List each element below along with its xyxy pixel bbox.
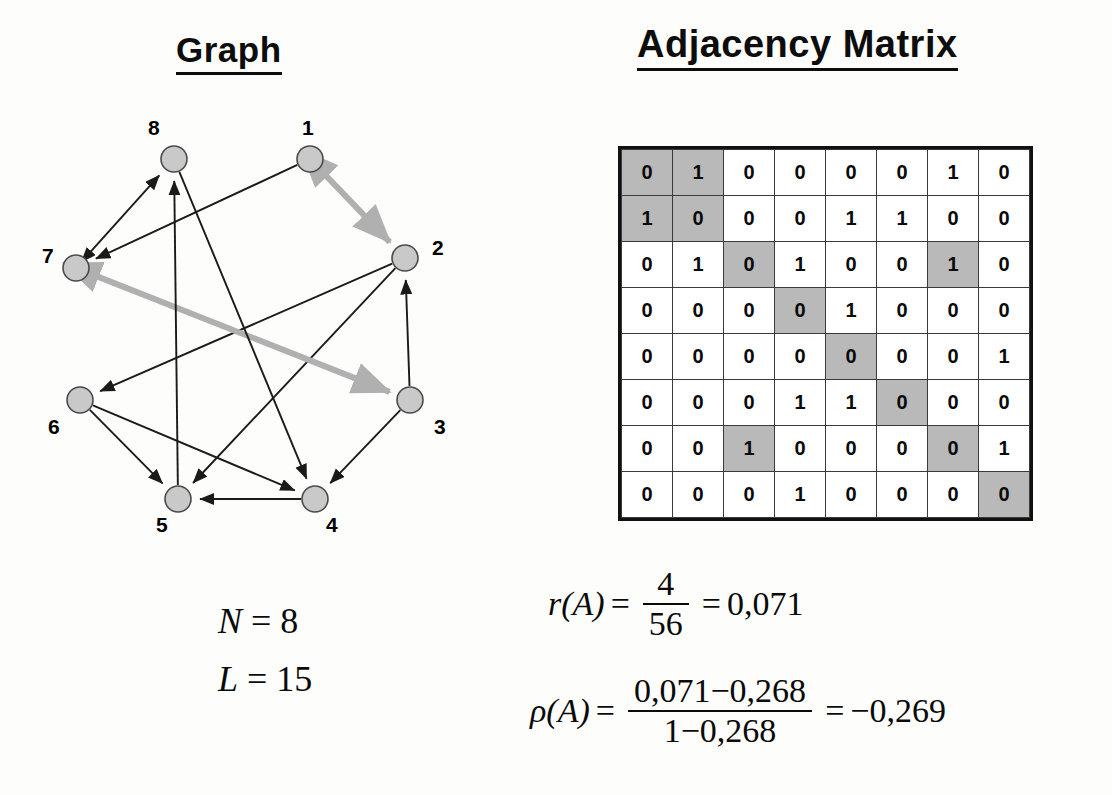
stat-l-value: 15 — [276, 659, 312, 699]
matrix-cell-6-6: 0 — [877, 380, 928, 426]
matrix-cell-4-1: 0 — [622, 288, 673, 334]
graph-node-7[interactable] — [63, 255, 89, 281]
stat-link-count: L = 15 — [218, 658, 312, 700]
matrix-cell-8-1: 0 — [622, 472, 673, 518]
matrix-cell-7-5: 0 — [826, 426, 877, 472]
formula-rho-numerator: 0,071−0,268 — [628, 672, 812, 710]
graph-node-label-6: 6 — [48, 415, 60, 439]
matrix-cell-8-8: 0 — [979, 472, 1030, 518]
formula-rho-equals-2: = — [825, 692, 844, 730]
matrix-cell-8-4: 1 — [775, 472, 826, 518]
formula-r-lhs: r(A) — [548, 585, 605, 623]
matrix-cell-5-3: 0 — [724, 334, 775, 380]
formula-rho-symbol: ρ — [530, 692, 546, 730]
graph-node-2[interactable] — [392, 245, 418, 271]
graph-edge-1-2 — [325, 175, 390, 242]
graph-node-8[interactable] — [161, 146, 187, 172]
matrix-row: 00100001 — [622, 426, 1030, 472]
formula-r-numerator: 4 — [643, 565, 689, 603]
graph-edge-6-5 — [90, 410, 163, 483]
formula-rho-arg: (A) — [546, 692, 589, 730]
stat-n-equals: = — [251, 601, 271, 641]
formula-reciprocity: r(A) = 4 56 = 0,071 — [548, 565, 804, 643]
matrix-cell-5-4: 0 — [775, 334, 826, 380]
formula-r-fraction: 4 56 — [643, 565, 689, 643]
graph-edge-7-8 — [91, 175, 160, 251]
graph-node-label-7: 7 — [42, 244, 54, 268]
graph-node-3[interactable] — [397, 387, 423, 413]
matrix-cell-1-7: 1 — [928, 150, 979, 196]
matrix-row: 01000010 — [622, 150, 1030, 196]
matrix-row: 00011000 — [622, 380, 1030, 426]
matrix-cell-8-3: 0 — [724, 472, 775, 518]
formula-rho-denominator: 1−0,268 — [628, 710, 812, 750]
matrix-cell-7-4: 0 — [775, 426, 826, 472]
graph-svg — [0, 90, 520, 560]
matrix-cell-6-5: 1 — [826, 380, 877, 426]
matrix-cell-5-2: 0 — [673, 334, 724, 380]
graph-node-label-3: 3 — [434, 415, 446, 439]
formula-rho-fraction: 0,071−0,268 1−0,268 — [628, 672, 812, 750]
matrix-cell-5-7: 0 — [928, 334, 979, 380]
graph-node-5[interactable] — [165, 486, 191, 512]
matrix-cell-4-8: 0 — [979, 288, 1030, 334]
stat-l-equals: = — [247, 659, 267, 699]
matrix-cell-4-2: 0 — [673, 288, 724, 334]
graph-node-label-8: 8 — [148, 116, 160, 140]
matrix-cell-6-7: 0 — [928, 380, 979, 426]
graph-edge-layer — [90, 165, 410, 499]
matrix-cell-8-2: 0 — [673, 472, 724, 518]
graph-edge-2-6 — [100, 264, 392, 392]
stat-node-count: N = 8 — [218, 600, 298, 642]
graph-node-4[interactable] — [302, 486, 328, 512]
graph-node-6[interactable] — [67, 387, 93, 413]
graph-edge-6-4 — [93, 405, 295, 490]
matrix-cell-6-8: 0 — [979, 380, 1030, 426]
matrix-row: 00010000 — [622, 472, 1030, 518]
formula-rho-result: −0,269 — [850, 692, 946, 730]
formula-r-equals-2: = — [702, 585, 721, 623]
matrix-cell-3-3: 0 — [724, 242, 775, 288]
formula-rho-equals-1: = — [596, 692, 615, 730]
matrix-cell-7-8: 1 — [979, 426, 1030, 472]
matrix-cell-4-7: 0 — [928, 288, 979, 334]
matrix-cell-1-2: 1 — [673, 150, 724, 196]
graph-edge-3-4 — [330, 410, 400, 483]
matrix-cell-5-8: 1 — [979, 334, 1030, 380]
matrix-cell-7-2: 0 — [673, 426, 724, 472]
matrix-cell-7-6: 0 — [877, 426, 928, 472]
matrix-cell-8-6: 0 — [877, 472, 928, 518]
matrix-cell-4-5: 1 — [826, 288, 877, 334]
formula-r-result: 0,071 — [727, 585, 804, 623]
matrix-cell-3-2: 1 — [673, 242, 724, 288]
adjacency-matrix: 0100001010001100010100100000100000000001… — [618, 146, 1033, 521]
matrix-cell-7-7: 0 — [928, 426, 979, 472]
matrix-cell-2-2: 0 — [673, 196, 724, 242]
stat-n-value: 8 — [280, 601, 298, 641]
matrix-row: 00000001 — [622, 334, 1030, 380]
stat-l-symbol: L — [218, 659, 238, 699]
matrix-cell-5-1: 0 — [622, 334, 673, 380]
matrix-cell-1-3: 0 — [724, 150, 775, 196]
matrix-cell-3-8: 0 — [979, 242, 1030, 288]
matrix-cell-2-6: 1 — [877, 196, 928, 242]
matrix-cell-3-6: 0 — [877, 242, 928, 288]
matrix-cell-2-4: 0 — [775, 196, 826, 242]
matrix-cell-7-1: 0 — [622, 426, 673, 472]
matrix-cell-4-3: 0 — [724, 288, 775, 334]
matrix-cell-8-5: 0 — [826, 472, 877, 518]
matrix-cell-7-3: 1 — [724, 426, 775, 472]
matrix-cell-1-1: 0 — [622, 150, 673, 196]
slide-page: Graph Adjacency Matrix — [0, 0, 1112, 795]
matrix-cell-6-1: 0 — [622, 380, 673, 426]
matrix-title: Adjacency Matrix — [637, 23, 958, 71]
matrix-cell-6-4: 1 — [775, 380, 826, 426]
matrix-cell-2-8: 0 — [979, 196, 1030, 242]
matrix-row: 01010010 — [622, 242, 1030, 288]
formula-r-equals-1: = — [611, 585, 630, 623]
matrix-cell-1-4: 0 — [775, 150, 826, 196]
graph-node-1[interactable] — [297, 146, 323, 172]
matrix-cell-6-3: 0 — [724, 380, 775, 426]
matrix-cell-4-4: 0 — [775, 288, 826, 334]
matrix-cell-3-1: 0 — [622, 242, 673, 288]
